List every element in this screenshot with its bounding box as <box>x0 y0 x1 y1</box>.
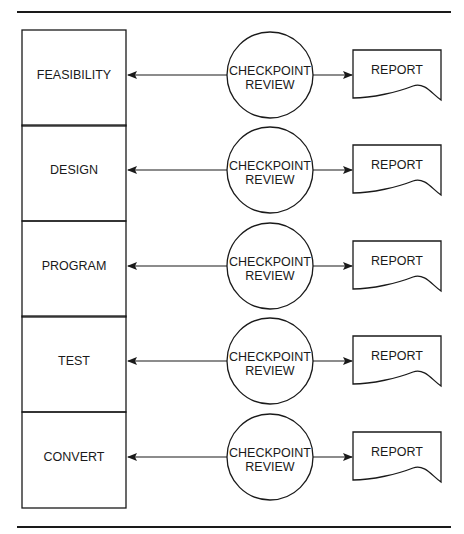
lifecycle-diagram: FEASIBILITYCHECKPOINTREVIEWREPORTDESIGNC… <box>0 0 464 534</box>
phase-label: FEASIBILITY <box>37 68 112 82</box>
checkpoint-label-line2: REVIEW <box>245 78 295 92</box>
checkpoint-label-line1: CHECKPOINT <box>229 64 311 78</box>
checkpoint-label-line2: REVIEW <box>245 173 295 187</box>
phase-row: PROGRAMCHECKPOINTREVIEWREPORT <box>22 221 441 317</box>
report-label: REPORT <box>371 158 423 172</box>
phase-label: CONVERT <box>44 450 105 464</box>
checkpoint-label-line1: CHECKPOINT <box>229 255 311 269</box>
phase-row: DESIGNCHECKPOINTREVIEWREPORT <box>22 125 441 221</box>
checkpoint-label-line1: CHECKPOINT <box>229 350 311 364</box>
checkpoint-label-line1: CHECKPOINT <box>229 446 311 460</box>
phase-row: FEASIBILITYCHECKPOINTREVIEWREPORT <box>22 30 441 126</box>
checkpoint-label-line1: CHECKPOINT <box>229 159 311 173</box>
report-label: REPORT <box>371 445 423 459</box>
phase-row: CONVERTCHECKPOINTREVIEWREPORT <box>22 412 441 508</box>
phase-row: TESTCHECKPOINTREVIEWREPORT <box>22 316 441 412</box>
checkpoint-label-line2: REVIEW <box>245 269 295 283</box>
report-label: REPORT <box>371 254 423 268</box>
phase-label: TEST <box>58 354 90 368</box>
report-label: REPORT <box>371 63 423 77</box>
phase-label: PROGRAM <box>42 259 107 273</box>
checkpoint-label-line2: REVIEW <box>245 364 295 378</box>
checkpoint-label-line2: REVIEW <box>245 460 295 474</box>
report-label: REPORT <box>371 349 423 363</box>
phase-label: DESIGN <box>50 163 98 177</box>
